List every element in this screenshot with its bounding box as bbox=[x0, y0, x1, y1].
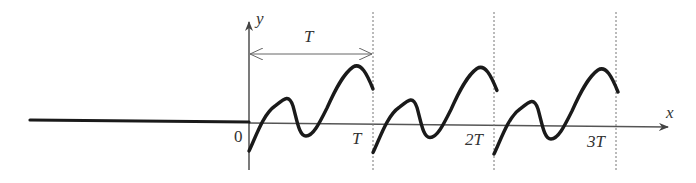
tick-label-3T: 3T bbox=[587, 133, 605, 150]
waveform bbox=[249, 66, 618, 154]
y-axis-label: y bbox=[256, 10, 264, 27]
origin-label: 0 bbox=[234, 128, 243, 145]
tick-label-T: T bbox=[352, 130, 361, 147]
x-axis-label: x bbox=[666, 104, 674, 121]
period-label: T bbox=[304, 28, 313, 45]
zero-signal-segment bbox=[30, 120, 249, 122]
x-axis bbox=[249, 123, 668, 127]
tick-label-2T: 2T bbox=[465, 131, 483, 148]
periodic-signal-diagram: y x 0 T T 2T 3T bbox=[0, 0, 696, 183]
